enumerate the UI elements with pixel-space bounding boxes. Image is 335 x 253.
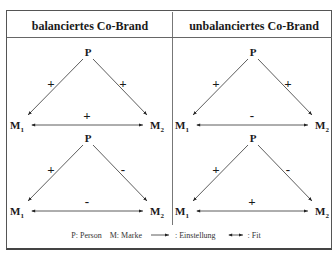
sign-p-m2: + bbox=[284, 76, 291, 91]
sign-m1-m2: - bbox=[85, 194, 89, 209]
edge-p-m1 bbox=[28, 145, 83, 201]
legend-marke: M: Marke bbox=[110, 231, 142, 240]
sign-m1-m2: - bbox=[250, 108, 254, 123]
legend-fit: : Fit bbox=[227, 231, 264, 240]
fit-arrow-icon bbox=[227, 232, 245, 238]
node-m2: M2 bbox=[315, 205, 329, 220]
sign-m1-m2: + bbox=[83, 108, 90, 123]
edge-p-m1 bbox=[193, 59, 248, 115]
node-m2: M2 bbox=[150, 205, 164, 220]
edge-p-m1 bbox=[28, 59, 83, 115]
node-m1: M1 bbox=[10, 205, 24, 220]
node-person: P bbox=[250, 46, 257, 58]
node-m1: M1 bbox=[10, 119, 24, 134]
sign-p-m2: + bbox=[119, 76, 126, 91]
triangle-diagrams: PM1M2+++PM1M2+--PM1M2++-PM1M2+-+ bbox=[0, 0, 335, 253]
node-person: P bbox=[85, 132, 92, 144]
sign-p-m1: + bbox=[47, 162, 54, 177]
legend-person: P: Person bbox=[71, 231, 101, 240]
node-m1: M1 bbox=[175, 205, 189, 220]
sign-m1-m2: + bbox=[248, 194, 255, 209]
edge-p-m1 bbox=[193, 145, 248, 201]
legend: P: Person M: Marke : Einstellung : Fit bbox=[0, 231, 335, 240]
sign-p-m1: + bbox=[47, 76, 54, 91]
node-person: P bbox=[250, 132, 257, 144]
sign-p-m1: + bbox=[212, 76, 219, 91]
legend-einstellung: : Einstellung bbox=[150, 231, 221, 240]
triangle: PM1M2+++ bbox=[10, 46, 164, 134]
sign-p-m2: - bbox=[121, 162, 125, 177]
triangle: PM1M2+-+ bbox=[175, 132, 329, 220]
node-m2: M2 bbox=[150, 119, 164, 134]
sign-p-m2: - bbox=[286, 162, 290, 177]
node-person: P bbox=[85, 46, 92, 58]
triangle: PM1M2++- bbox=[175, 46, 329, 134]
node-m1: M1 bbox=[175, 119, 189, 134]
node-m2: M2 bbox=[315, 119, 329, 134]
sign-p-m1: + bbox=[212, 162, 219, 177]
triangle: PM1M2+-- bbox=[10, 132, 164, 220]
einstellung-arrow-icon bbox=[150, 232, 172, 238]
